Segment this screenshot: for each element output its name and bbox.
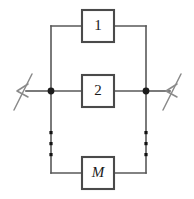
ellipsis-dot	[49, 131, 52, 134]
ellipsis-dot	[144, 153, 147, 156]
ellipsis-dot	[144, 142, 147, 145]
parallel-circuit-diagram: 1 2 M	[0, 0, 194, 199]
branch-2-label: 2	[94, 82, 102, 98]
wire-break-left-icon	[14, 74, 32, 110]
ellipsis-dot	[49, 142, 52, 145]
left-junction-node	[48, 88, 55, 95]
ellipsis-dot	[144, 131, 147, 134]
right-junction-node	[143, 88, 150, 95]
branch-m-label: M	[91, 164, 106, 180]
ellipsis-dot	[49, 153, 52, 156]
circuit-schematic-canvas: 1 2 M	[0, 0, 194, 199]
branch-1-label: 1	[94, 17, 102, 33]
wire-break-right-icon	[163, 74, 181, 110]
branch-m-element[interactable]: M	[82, 157, 114, 189]
branch-2-element[interactable]: 2	[82, 75, 114, 107]
branch-1-element[interactable]: 1	[82, 10, 114, 42]
